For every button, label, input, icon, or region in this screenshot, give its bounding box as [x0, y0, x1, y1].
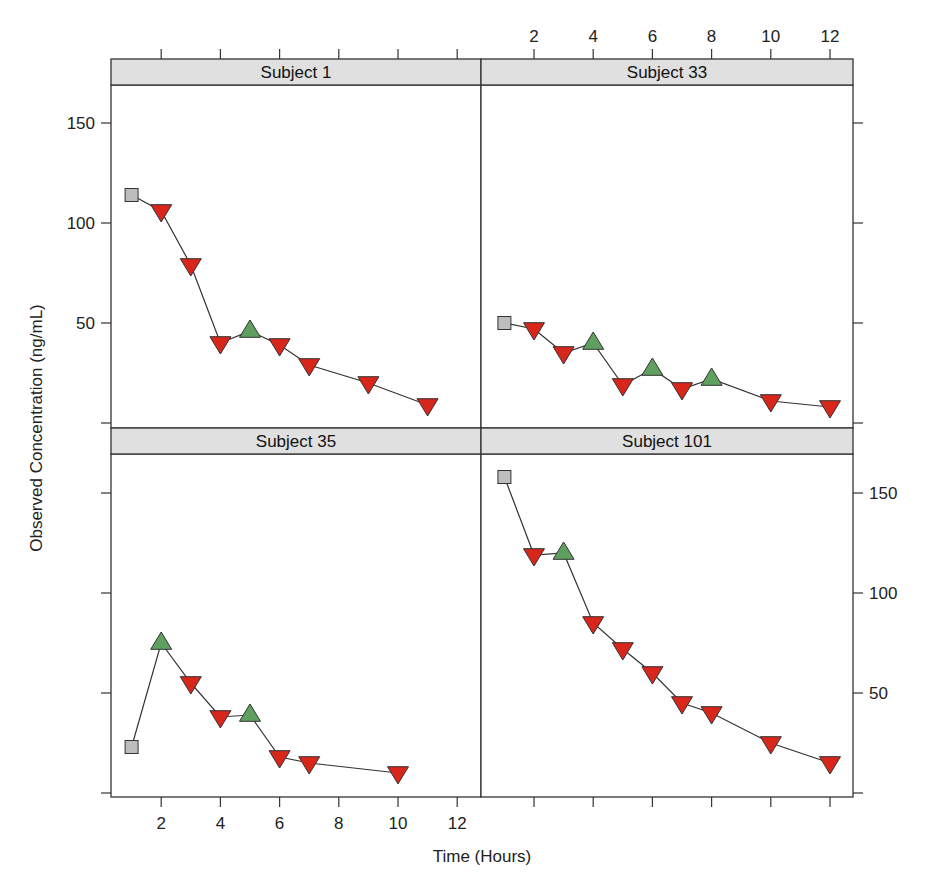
panel-frame: [481, 454, 853, 797]
panel-title: Subject 1: [261, 63, 332, 82]
x-tick-label-top: 12: [821, 27, 840, 46]
x-tick-label-top: 8: [707, 27, 716, 46]
x-axis-label: Time (Hours): [433, 847, 532, 866]
x-tick-label-bottom: 6: [275, 814, 284, 833]
x-tick-label-bottom: 4: [216, 814, 225, 833]
panel-subject-1: Subject 1: [111, 59, 481, 428]
x-tick-label-top: 4: [588, 27, 597, 46]
first-point-square-marker: [498, 317, 511, 330]
y-tick-label-right: 100: [869, 584, 897, 603]
x-tick-label-top: 6: [648, 27, 657, 46]
panels-layer: Subject 1Subject 33Subject 35Subject 101: [111, 59, 853, 797]
y-tick-label-right: 150: [869, 484, 897, 503]
y-tick-label-right: 50: [869, 684, 888, 703]
panel-title: Subject 35: [256, 432, 336, 451]
panel-frame: [481, 85, 853, 428]
panel-subject-101: Subject 101: [481, 428, 853, 797]
panel-frame: [111, 85, 481, 428]
panel-subject-33: Subject 33: [481, 59, 853, 428]
y-tick-label-left: 150: [67, 114, 95, 133]
y-axis-label: Observed Concentration (ng/mL): [27, 304, 46, 552]
x-tick-label-bottom: 10: [389, 814, 408, 833]
panel-title: Subject 33: [627, 63, 707, 82]
panel-frame: [111, 454, 481, 797]
panel-subject-35: Subject 35: [111, 428, 481, 797]
x-tick-label-bottom: 2: [156, 814, 165, 833]
lattice-chart: Subject 1Subject 33Subject 35Subject 101…: [0, 0, 930, 888]
y-tick-label-left: 100: [67, 214, 95, 233]
first-point-square-marker: [498, 471, 511, 484]
x-tick-label-bottom: 8: [334, 814, 343, 833]
x-tick-label-bottom: 12: [448, 814, 467, 833]
y-tick-label-left: 50: [76, 314, 95, 333]
x-tick-label-top: 2: [529, 27, 538, 46]
first-point-square-marker: [125, 741, 138, 754]
first-point-square-marker: [125, 189, 138, 202]
panel-title: Subject 101: [622, 432, 712, 451]
x-tick-label-top: 10: [761, 27, 780, 46]
